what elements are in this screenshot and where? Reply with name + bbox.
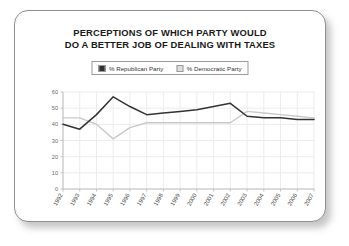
x-tick-label: 1996 — [119, 192, 131, 207]
x-tick-label: 2001 — [203, 193, 215, 207]
data-series-group — [63, 97, 314, 139]
x-tick-label: 1995 — [102, 192, 114, 207]
series-line-democratic — [63, 111, 314, 138]
line-chart-svg: 0102030405060199219931994199519961997199… — [15, 11, 326, 222]
y-tick-label: 50 — [52, 105, 58, 111]
chart-card: PERCEPTIONS OF WHICH PARTY WOULD DO A BE… — [14, 10, 326, 222]
x-tick-label: 1993 — [69, 192, 81, 207]
x-tick-label: 2007 — [303, 193, 315, 207]
y-tick-label: 10 — [52, 170, 58, 176]
x-tick-label: 1999 — [169, 193, 181, 207]
x-tick-label: 2005 — [270, 192, 282, 207]
x-tick-label: 2006 — [286, 192, 298, 207]
grid-lines — [63, 92, 314, 189]
x-tick-label: 1998 — [153, 192, 165, 207]
x-tick-label: 2000 — [186, 192, 198, 207]
plot-area: 0102030405060199219931994199519961997199… — [15, 11, 326, 222]
screenshot-root: PERCEPTIONS OF WHICH PARTY WOULD DO A BE… — [0, 0, 349, 246]
x-tick-label: 1997 — [136, 193, 148, 207]
y-tick-label: 40 — [52, 121, 58, 127]
y-tick-label: 20 — [52, 154, 58, 160]
y-tick-label: 30 — [52, 138, 58, 144]
x-tick-label: 1992 — [52, 193, 64, 207]
x-tick-label: 1994 — [86, 192, 98, 207]
x-tick-label: 2002 — [219, 193, 231, 207]
x-tick-label: 2004 — [253, 192, 265, 207]
x-axis-ticks: 1992199319941995199619971998199920002001… — [52, 189, 315, 207]
x-tick-label: 2003 — [236, 192, 248, 207]
y-axis-ticks: 0102030405060 — [52, 89, 63, 192]
y-tick-label: 0 — [55, 186, 58, 192]
y-tick-label: 60 — [52, 89, 58, 95]
